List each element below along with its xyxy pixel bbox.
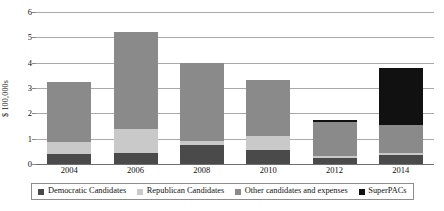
y-tick-label: 1 — [16, 135, 32, 144]
bar-segment[interactable] — [47, 142, 91, 153]
bar-stack — [180, 63, 224, 164]
x-tick-label: 2008 — [172, 165, 232, 176]
legend-swatch-icon — [359, 189, 365, 195]
legend-label: Democratic Candidates — [48, 187, 126, 195]
x-axis-labels: 200420062008201020122014 — [36, 165, 434, 177]
legend-label: Other candidates and expenses — [245, 187, 348, 195]
legend-label: SuperPACs — [368, 187, 406, 195]
legend-label: Republican Candidates — [147, 187, 224, 195]
bar-segment[interactable] — [246, 80, 290, 136]
legend-item[interactable]: Democratic Candidates — [38, 187, 126, 195]
plot-wrapper: $ 100,000s 0123456 200420062008201020122… — [0, 2, 444, 174]
y-tick-label: 0 — [16, 160, 32, 169]
bar-segment[interactable] — [180, 63, 224, 142]
y-tick-label: 4 — [16, 59, 32, 68]
stacked-bar-chart: $ 100,000s 0123456 200420062008201020122… — [0, 0, 444, 211]
bar-stack — [114, 32, 158, 164]
bar-stack — [246, 80, 290, 164]
legend-swatch-icon — [38, 189, 44, 195]
bar-segment[interactable] — [114, 129, 158, 153]
bar-stack — [47, 82, 91, 164]
plot-area — [36, 12, 434, 164]
legend-swatch-icon — [137, 189, 143, 195]
bar-segment[interactable] — [47, 82, 91, 143]
x-tick-label: 2010 — [238, 165, 298, 176]
x-tick-label: 2006 — [106, 165, 166, 176]
chart-legend: Democratic CandidatesRepublican Candidat… — [31, 183, 414, 200]
y-tick-label: 3 — [16, 84, 32, 93]
x-tick-label: 2014 — [371, 165, 431, 176]
legend-item[interactable]: Republican Candidates — [137, 187, 224, 195]
bar-stack — [313, 120, 357, 164]
x-tick-label: 2012 — [305, 165, 365, 176]
bar-segment[interactable] — [313, 158, 357, 164]
x-tick-label: 2004 — [39, 165, 99, 176]
bar-stack — [379, 68, 423, 164]
bar-segment[interactable] — [114, 153, 158, 164]
legend-swatch-icon — [235, 189, 241, 195]
legend-item[interactable]: SuperPACs — [359, 187, 407, 195]
y-tick-label: 2 — [16, 109, 32, 118]
bars-layer — [36, 12, 434, 164]
bar-segment[interactable] — [379, 125, 423, 153]
bar-segment[interactable] — [114, 32, 158, 128]
y-tick-label: 6 — [16, 8, 32, 17]
bar-segment[interactable] — [379, 155, 423, 164]
bar-segment[interactable] — [246, 136, 290, 150]
y-axis-title: $ 100,000s — [1, 58, 15, 138]
bar-segment[interactable] — [379, 68, 423, 125]
y-tick-label: 5 — [16, 33, 32, 42]
bar-segment[interactable] — [47, 154, 91, 164]
bar-segment[interactable] — [246, 150, 290, 164]
bar-segment[interactable] — [180, 145, 224, 164]
legend-item[interactable]: Other candidates and expenses — [235, 187, 348, 195]
bar-segment[interactable] — [313, 122, 357, 156]
